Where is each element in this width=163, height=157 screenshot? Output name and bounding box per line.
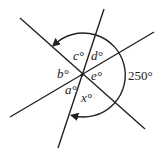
label-e: e° [91, 68, 102, 83]
angle-diagram: c° d° b° e° a° x° 250° [0, 0, 163, 157]
label-c: c° [73, 48, 84, 63]
label-a: a° [65, 82, 77, 97]
label-d: d° [91, 48, 103, 63]
label-250: 250° [128, 68, 153, 83]
label-b: b° [57, 66, 69, 81]
intersection-point [80, 73, 83, 76]
label-x: x° [80, 90, 92, 105]
